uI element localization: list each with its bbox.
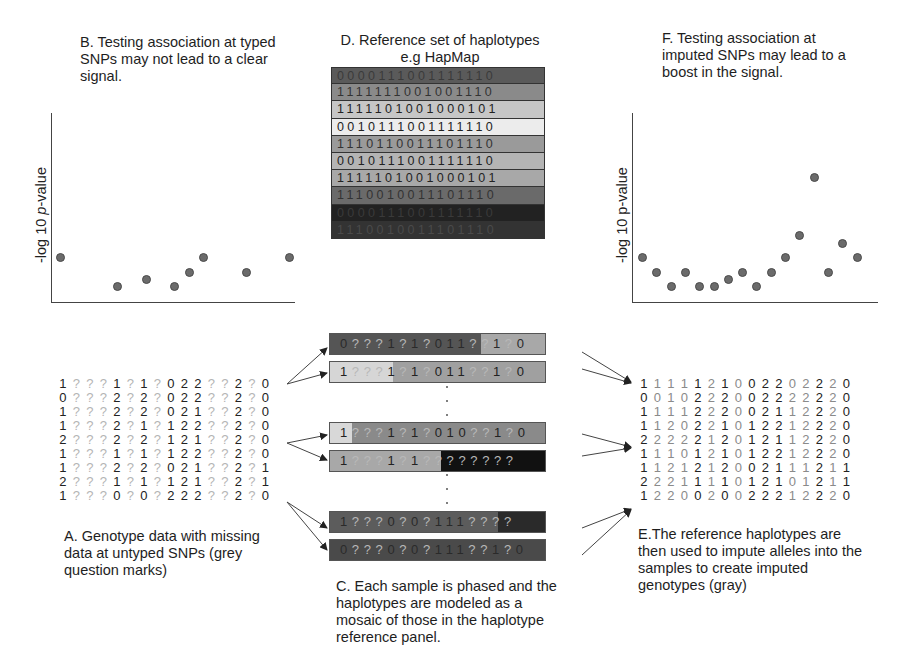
arrow-icon: [582, 352, 631, 382]
arrow-icon: [582, 509, 631, 528]
arrow-icon: [287, 502, 327, 528]
arrow-icon: [287, 435, 327, 443]
arrows: [0, 0, 915, 666]
arrow-icon: [582, 448, 631, 456]
arrow-icon: [287, 443, 327, 460]
arrow-icon: [582, 510, 631, 555]
arrow-icon: [287, 502, 327, 550]
arrow-icon: [582, 369, 631, 383]
arrow-icon: [582, 434, 631, 447]
